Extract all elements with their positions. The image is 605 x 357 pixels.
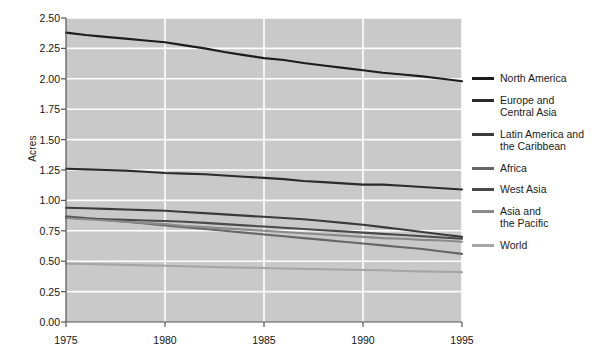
legend-label: North America (500, 72, 567, 85)
legend-item[interactable]: North America (472, 72, 605, 85)
legend-line-swatch-icon (472, 133, 494, 136)
legend-item[interactable]: Latin America and the Caribbean (472, 128, 605, 153)
legend-label: Asia and the Pacific (500, 205, 548, 230)
legend-line-swatch-icon (472, 244, 494, 247)
legend-item[interactable]: World (472, 239, 605, 252)
legend-line-swatch-icon (472, 77, 494, 80)
legend-line-swatch-icon (472, 167, 494, 170)
legend-label: Africa (500, 162, 527, 175)
legend-item[interactable]: West Asia (472, 183, 605, 196)
legend-line-swatch-icon (472, 188, 494, 191)
legend-line-swatch-icon (472, 210, 494, 213)
legend-label: Latin America and the Caribbean (500, 128, 584, 153)
legend-label: World (500, 239, 527, 252)
acres-per-capita-line-chart: Acres 0.000.250.500.751.001.251.501.752.… (0, 0, 605, 357)
legend-label: West Asia (500, 183, 547, 196)
legend-item[interactable]: Africa (472, 162, 605, 175)
legend-line-swatch-icon (472, 99, 494, 102)
legend-item[interactable]: Asia and the Pacific (472, 205, 605, 230)
legend-label: Europe and Central Asia (500, 94, 557, 119)
legend-item[interactable]: Europe and Central Asia (472, 94, 605, 119)
chart-legend: North AmericaEurope and Central AsiaLati… (472, 72, 605, 260)
